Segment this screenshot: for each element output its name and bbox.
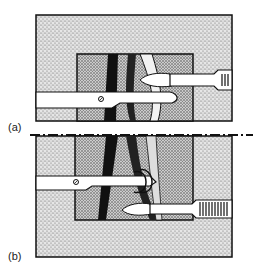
panel-label-b: (b) — [8, 250, 21, 262]
panel-label-a: (a) — [8, 121, 21, 133]
diagram-canvas — [0, 0, 253, 272]
